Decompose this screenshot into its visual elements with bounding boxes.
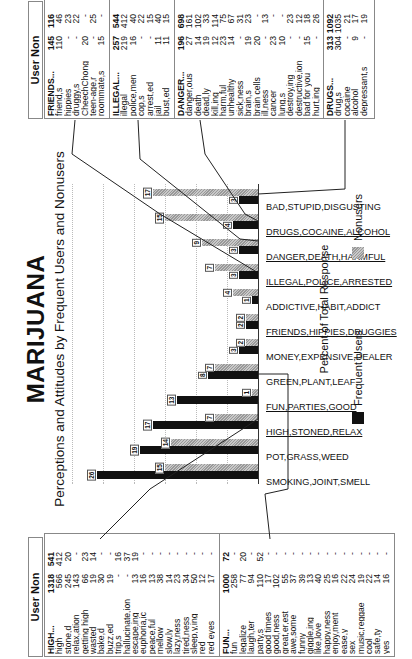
term-label: sex xyxy=(348,596,356,654)
term-label: ease,y xyxy=(340,596,348,654)
axis-label: Percent of Total Response xyxy=(318,209,330,409)
term-label: cancer xyxy=(269,58,277,116)
term-label: slow,ly xyxy=(165,596,173,654)
bar-value-label: 7 xyxy=(205,264,214,272)
illegal-breakdown-table: ILLEGAL...257544illegal219412police,men1… xyxy=(109,0,177,119)
nonuser-count: 22 xyxy=(72,14,80,36)
bar-nonusers xyxy=(165,214,258,222)
nonuser-count: - xyxy=(182,552,190,574)
chart-page: MARIJUANA Perceptions and Attitudes by F… xyxy=(0,0,412,659)
bar-value-label: 15 xyxy=(155,462,164,473)
term-label: lazy,ness xyxy=(173,596,181,654)
bar-frequent-users xyxy=(252,297,258,305)
term-label: destroy,ing xyxy=(286,58,294,116)
term-label: CheechChong xyxy=(81,58,89,116)
term-label: cop,s xyxy=(137,58,145,116)
term-label: enjoy,ment xyxy=(331,596,339,654)
term-label: trip,s xyxy=(114,596,122,654)
term-label: legalize xyxy=(239,596,247,654)
term-label: awe,some xyxy=(289,596,297,654)
nonuser-count: - xyxy=(97,14,105,36)
nonuser-count: - xyxy=(139,552,147,574)
term-label: alcohol xyxy=(351,58,359,116)
nonuser-count: 20 xyxy=(64,552,72,574)
term-label: bad for you xyxy=(303,58,311,116)
nonuser-count: - xyxy=(156,552,164,574)
nonuser-count: - xyxy=(365,552,373,574)
term-label: fun xyxy=(230,596,238,654)
term-label: sleep,y,ing xyxy=(190,596,198,654)
term-label: kill,ing xyxy=(211,58,219,116)
term-label: DANGER... xyxy=(177,58,185,116)
table-row: red eyes17- xyxy=(207,536,215,654)
term-label: cocaine xyxy=(343,58,351,116)
category-label: GREEN,PLANT,LEAF xyxy=(266,377,355,387)
bar-value-label: 15 xyxy=(155,212,164,223)
nonuser-count: 52 xyxy=(256,552,264,574)
term-label: DRUGS... xyxy=(326,58,334,116)
user-count: - xyxy=(360,36,368,58)
bar-value-label: 3 xyxy=(229,346,238,354)
nonuser-count: - xyxy=(357,552,365,574)
bar-value-label: 3 xyxy=(229,246,238,254)
term-label: high xyxy=(55,596,63,654)
bar-value-label: 26 xyxy=(87,470,96,481)
bar-nonusers xyxy=(215,414,258,422)
table-row: druggy,s-22 xyxy=(72,0,80,116)
bar-frequent-users xyxy=(239,197,258,205)
term-label: sick,ness xyxy=(236,58,244,116)
nonuser-count: - xyxy=(272,552,280,574)
gridline xyxy=(72,184,73,484)
term-label: funny xyxy=(298,596,306,654)
nonuser-count: - xyxy=(373,552,381,574)
nonuser-count: - xyxy=(348,552,356,574)
term-label: jail xyxy=(154,58,162,116)
legend-swatch-users xyxy=(352,412,364,424)
nonuser-count: - xyxy=(382,552,390,574)
right-table-header: User Non xyxy=(28,1,43,119)
nonuser-count: - xyxy=(190,552,198,574)
bar-frequent-users xyxy=(239,272,258,280)
term-label: music,reggae xyxy=(357,596,365,654)
bar-value-label: 19 xyxy=(130,445,139,456)
bar-value-label: 3 xyxy=(229,271,238,279)
user-count: - xyxy=(286,36,294,58)
term-label: good,ness xyxy=(272,596,280,654)
nonuser-count: - xyxy=(269,14,277,36)
nonuser-count: - xyxy=(264,552,272,574)
user-count: - xyxy=(137,36,145,58)
nonuser-count: - xyxy=(298,552,306,574)
bar-value-label: 8 xyxy=(198,371,207,379)
table-row: depressant,s-19 xyxy=(360,0,368,116)
term-label: relax,ation xyxy=(72,596,80,654)
term-label: lung,s xyxy=(278,58,286,116)
bar-value-label: 2 xyxy=(236,321,245,329)
term-label: peace,ful xyxy=(148,596,156,654)
user-count: 11 xyxy=(162,36,170,58)
bar-nonusers xyxy=(246,339,258,347)
table-row: hurt,ing-26 xyxy=(312,0,320,116)
gridline xyxy=(103,184,104,484)
term-label: death xyxy=(194,58,202,116)
category-label: FRIENDS,HIPPIES,DRUGGIES xyxy=(266,327,397,337)
bar-value-label: 2 xyxy=(236,339,245,347)
term-label: hallucinate,ion xyxy=(123,596,131,654)
user-count: 15 xyxy=(97,36,105,58)
term-label: bust,ed xyxy=(162,58,170,116)
bar-nonusers xyxy=(246,314,258,322)
nonuser-count: - xyxy=(207,552,215,574)
nonuser-count: - xyxy=(289,552,297,574)
table-row: teen-age,r-25 xyxy=(89,0,97,116)
term-label: escape,ing xyxy=(131,596,139,654)
user-count: 20 xyxy=(253,36,261,58)
legend-swatch-nonusers xyxy=(352,247,364,259)
term-label: buzz,ed xyxy=(106,596,114,654)
bar-value-label: 17 xyxy=(143,187,152,198)
term-label: getting high xyxy=(81,596,89,654)
legend-label-nonusers: Nonusers xyxy=(352,194,364,241)
term-label: illegal xyxy=(120,58,128,116)
nonuser-count: - xyxy=(148,552,156,574)
bar-nonusers xyxy=(233,289,258,297)
legend-label-users: Frequent Users xyxy=(352,330,364,406)
left-table-header: User Non xyxy=(28,537,43,657)
